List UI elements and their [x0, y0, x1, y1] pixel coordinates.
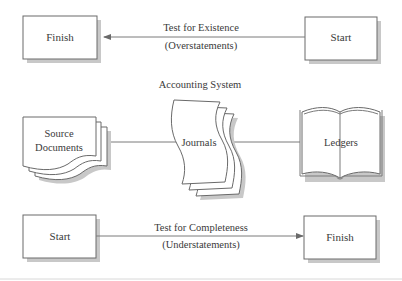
bottom-start-box: Start [23, 215, 100, 262]
existence-test-label: Test for Existence [163, 22, 239, 33]
top-finish-label: Finish [46, 31, 74, 43]
overstatements-label: (Overstatements) [165, 40, 238, 52]
ledgers-symbol: Ledgers [300, 108, 385, 183]
top-finish-box: Finish [23, 16, 101, 63]
source-documents-label-line2: Documents [35, 142, 83, 153]
accounting-system-title: Accounting System [159, 79, 242, 90]
journals-label: Journals [182, 137, 217, 148]
top-start-label: Start [331, 31, 352, 43]
bottom-finish-label: Finish [326, 231, 354, 243]
source-documents-symbol: Source Documents [23, 117, 111, 184]
bottom-start-label: Start [50, 230, 71, 242]
top-start-box: Start [305, 17, 381, 64]
completeness-test-arrow: Test for Completeness (Understatements) [96, 222, 303, 251]
existence-test-arrow: Test for Existence (Overstatements) [104, 22, 305, 52]
ledgers-label: Ledgers [324, 137, 358, 148]
understatements-label: (Understatements) [162, 239, 240, 251]
source-documents-label-line1: Source [44, 128, 73, 139]
completeness-test-label: Test for Completeness [154, 222, 248, 233]
bottom-finish-box: Finish [304, 216, 380, 263]
journals-symbol: Journals [171, 100, 245, 200]
audit-test-diagram: Finish Start Test for Existence (Oversta… [0, 0, 402, 281]
